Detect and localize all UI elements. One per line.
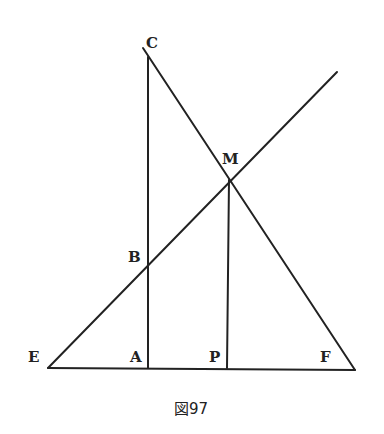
- label-E: E: [28, 348, 39, 366]
- geometry-figure: C M B E A P F 図97: [0, 0, 384, 434]
- segment-CF: [143, 48, 355, 370]
- label-B: B: [128, 248, 141, 266]
- label-A: A: [129, 348, 142, 366]
- label-P: P: [209, 348, 220, 366]
- segment-MP: [227, 180, 229, 368]
- figure-caption: 図97: [174, 400, 208, 418]
- label-M: M: [222, 150, 239, 168]
- ray-EBM: [48, 72, 337, 368]
- label-F: F: [320, 348, 331, 366]
- base-line-EF: [48, 368, 355, 370]
- label-C: C: [146, 34, 158, 52]
